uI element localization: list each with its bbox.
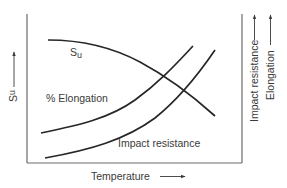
svg-text:Su: Su bbox=[7, 90, 19, 102]
impact-resistance-curve-label: Impact resistance bbox=[118, 137, 200, 149]
right-y-axis-label-impact: Impact resistance bbox=[248, 40, 260, 122]
svg-text:Impact resistance: Impact resistance bbox=[248, 40, 260, 122]
elongation-curve bbox=[41, 46, 193, 133]
chart-figure: Su % Elongation Impact resistance Temper… bbox=[0, 0, 287, 188]
right-y-axis-label-elongation: Elongation bbox=[264, 50, 276, 100]
x-axis-label: Temperature bbox=[91, 170, 150, 182]
svg-text:Elongation: Elongation bbox=[264, 50, 276, 100]
left-y-axis-label: Su bbox=[7, 90, 19, 102]
su-curve-label: Su bbox=[70, 46, 82, 60]
elongation-curve-label: % Elongation bbox=[46, 92, 108, 104]
